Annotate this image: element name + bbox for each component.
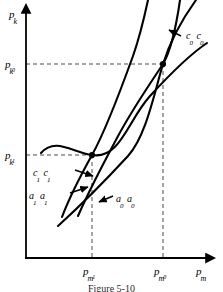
figure-container: pk pm pk0 pk1 pm1 pm0 c0 c0 c1 c1 a1 a1 … bbox=[0, 0, 223, 292]
figure-caption: Figure 5-10 bbox=[0, 283, 223, 292]
tick-label-pk1: pk1 bbox=[5, 146, 17, 165]
equilibrium-dot-E1 bbox=[89, 152, 95, 158]
curve-c1 bbox=[41, 43, 207, 155]
equilibrium-dot-E0 bbox=[160, 61, 166, 67]
curve-a0 bbox=[78, 0, 180, 216]
tick-label-pk0: pk0 bbox=[5, 55, 17, 74]
curve-label-c1: c1 c1 bbox=[33, 163, 51, 182]
x-axis-label: pm bbox=[196, 262, 207, 281]
label-arrows bbox=[70, 30, 181, 202]
axes bbox=[25, 12, 207, 258]
curve-label-a0: a0 a0 bbox=[116, 189, 136, 208]
tick-label-pm0: pm0 bbox=[154, 262, 168, 281]
tick-label-pm1: pm1 bbox=[83, 262, 97, 281]
curve-label-a1: a1 a1 bbox=[29, 186, 49, 205]
projection-lines bbox=[26, 64, 163, 258]
y-axis-label: pk bbox=[9, 5, 18, 24]
arrow-a0-leader bbox=[99, 196, 113, 202]
curve-label-c0: c0 c0 bbox=[186, 26, 204, 45]
